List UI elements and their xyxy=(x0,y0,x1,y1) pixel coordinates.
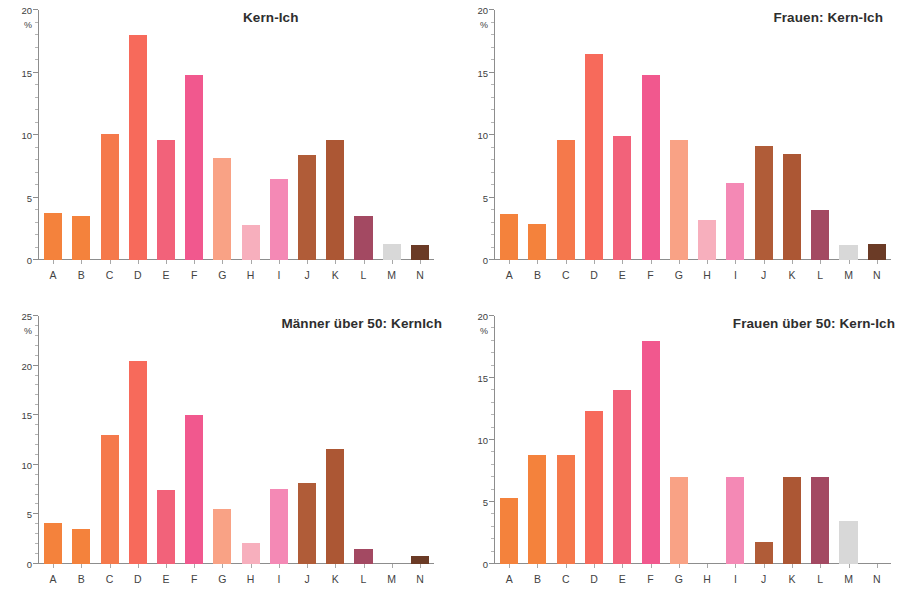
y-axis-tick xyxy=(33,134,38,135)
y-axis-label: 5 xyxy=(483,497,488,508)
y-axis-minor-tick xyxy=(491,352,494,353)
x-axis-label-F: F xyxy=(180,269,208,281)
bar-slot: C xyxy=(552,316,580,564)
x-axis-label-K: K xyxy=(778,269,806,281)
y-axis-label: 10 xyxy=(477,435,488,446)
x-axis-label-M: M xyxy=(378,573,406,585)
bar-G xyxy=(213,509,231,564)
y-axis-label: 0 xyxy=(27,255,32,266)
y-axis-label: 15 xyxy=(477,67,488,78)
bar-J xyxy=(755,146,773,260)
x-axis-label-A: A xyxy=(39,573,67,585)
x-axis-tick xyxy=(877,564,878,568)
x-axis-label-E: E xyxy=(152,573,180,585)
plot-area: 05101520%ABCDEFGHIJKLMN xyxy=(494,10,891,260)
plot-area: 0510152025%ABCDEFGHIJKLMN xyxy=(38,316,434,564)
bar-slot: F xyxy=(180,10,208,260)
x-axis-tick xyxy=(651,260,652,264)
y-axis-minor-tick xyxy=(491,109,494,110)
y-axis-minor-tick xyxy=(35,34,38,35)
x-axis-tick xyxy=(820,260,821,264)
x-axis-tick xyxy=(279,564,280,568)
bar-slot: M xyxy=(378,316,406,564)
bar-A xyxy=(44,523,62,564)
x-axis-tick xyxy=(707,260,708,264)
bar-E xyxy=(157,490,175,564)
y-axis-minor-tick xyxy=(35,222,38,223)
y-axis-label: 25 xyxy=(21,311,32,322)
bar-C xyxy=(101,134,119,260)
bar-K xyxy=(326,449,344,564)
x-axis-tick xyxy=(251,260,252,264)
y-axis-minor-tick xyxy=(35,494,38,495)
x-axis-tick xyxy=(622,260,623,264)
bar-slot: H xyxy=(237,10,265,260)
x-axis-label-N: N xyxy=(863,573,891,585)
x-axis-label-K: K xyxy=(321,269,349,281)
x-axis-tick xyxy=(679,564,680,568)
x-axis-label-M: M xyxy=(378,269,406,281)
x-axis-label-J: J xyxy=(750,269,778,281)
x-axis-tick xyxy=(138,260,139,264)
x-axis-label-E: E xyxy=(152,269,180,281)
bar-J xyxy=(298,155,316,260)
bar-slot: F xyxy=(636,316,664,564)
bar-D xyxy=(585,54,603,260)
x-axis-tick xyxy=(792,260,793,264)
x-axis-label-K: K xyxy=(778,573,806,585)
y-axis-minor-tick xyxy=(491,427,494,428)
chart-panel-top-left: Kern-Ich 05101520%ABCDEFGHIJKLMN xyxy=(0,0,450,302)
bar-slot: A xyxy=(39,316,67,564)
y-axis-tick xyxy=(489,197,494,198)
x-axis-label-N: N xyxy=(406,269,434,281)
bar-slot: A xyxy=(495,10,523,260)
x-axis-tick xyxy=(849,564,850,568)
y-axis-minor-tick xyxy=(35,474,38,475)
x-axis-label-K: K xyxy=(321,573,349,585)
x-axis-tick xyxy=(735,260,736,264)
bar-slot: G xyxy=(665,316,693,564)
y-axis-tick xyxy=(33,197,38,198)
x-axis-label-L: L xyxy=(806,269,834,281)
x-axis-label-J: J xyxy=(750,573,778,585)
bar-series: ABCDEFGHIJKLMN xyxy=(39,316,434,564)
bar-slot: J xyxy=(293,316,321,564)
y-axis-minor-tick xyxy=(491,222,494,223)
x-axis-label-L: L xyxy=(806,573,834,585)
bar-M xyxy=(383,244,401,260)
y-axis-minor-tick xyxy=(491,538,494,539)
y-axis-minor-tick xyxy=(35,22,38,23)
bar-slot: E xyxy=(608,316,636,564)
bar-L xyxy=(811,210,829,260)
y-axis-tick xyxy=(33,464,38,465)
y-axis-minor-tick xyxy=(35,533,38,534)
y-axis-label: 0 xyxy=(27,559,32,570)
y-axis-minor-tick xyxy=(491,476,494,477)
y-axis-label: 5 xyxy=(483,192,488,203)
x-axis-tick xyxy=(735,564,736,568)
bar-L xyxy=(354,549,372,564)
y-axis-label: 15 xyxy=(21,67,32,78)
bar-I xyxy=(270,179,288,260)
x-axis-label-B: B xyxy=(523,269,551,281)
y-axis-minor-tick xyxy=(491,513,494,514)
y-axis-tick xyxy=(33,259,38,260)
y-axis-minor-tick xyxy=(35,97,38,98)
bar-C xyxy=(101,435,119,564)
bar-I xyxy=(726,477,744,564)
x-axis-tick xyxy=(764,260,765,264)
bar-slot: L xyxy=(806,10,834,260)
x-axis-tick xyxy=(335,260,336,264)
bar-slot: K xyxy=(778,316,806,564)
bar-F xyxy=(185,75,203,260)
y-axis-tick xyxy=(489,315,494,316)
y-axis-tick xyxy=(33,9,38,10)
bar-K xyxy=(326,140,344,260)
bar-slot: L xyxy=(349,10,377,260)
y-axis-label: 20 xyxy=(477,5,488,16)
y-axis-label: 15 xyxy=(21,410,32,421)
bar-A xyxy=(500,498,518,564)
x-axis-label-B: B xyxy=(67,573,95,585)
y-axis-minor-tick xyxy=(491,526,494,527)
x-axis-tick xyxy=(53,260,54,264)
